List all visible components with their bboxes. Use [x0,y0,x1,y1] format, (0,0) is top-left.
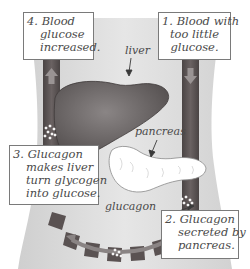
step-2-line-3: pancreas. [165,239,235,252]
step-4-line-1: Blood [42,14,75,28]
step-1-box: 1. Blood with too little glucose. [158,12,231,60]
step-2-number: 2. [165,212,176,226]
step-3-box: 3. Glucagon makes liver turn glycogen in… [9,145,99,205]
step-1-line-3: glucose. [162,41,227,54]
step-4-box: 4. Blood glucose increased. [23,12,94,60]
step-1-line-1: Blood with [177,14,240,28]
step-3-line-1: Glucagon [28,147,83,161]
step-2-line-1: Glucagon [180,212,235,226]
glucagon-label: glucagon [105,200,156,213]
step-2-box: 2. Glucagon secreted by pancreas. [161,210,239,259]
step-3-number: 3. [13,147,24,161]
pancreas-label: pancreas [135,125,186,138]
step-4-line-3: increased. [27,41,90,54]
step-3-line-4: into glucose. [13,187,95,200]
step-1-number: 1. [162,14,173,28]
step-4-number: 4. [27,14,38,28]
glucagon-diagram: 4. Blood glucose increased. 1. Blood wit… [0,0,250,269]
liver-label: liver [125,44,150,57]
